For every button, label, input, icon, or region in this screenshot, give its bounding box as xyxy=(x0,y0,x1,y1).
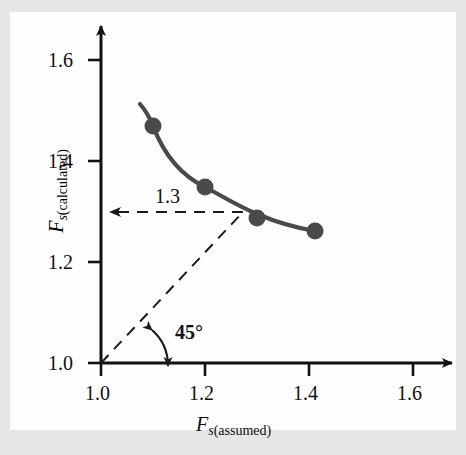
x-tick-label-1.4: 1.4 xyxy=(293,383,318,403)
x-axis-title-main: F xyxy=(196,413,208,435)
solution-value-label: 1.3 xyxy=(155,186,180,206)
y-axis xyxy=(88,26,101,363)
data-point xyxy=(307,223,324,240)
y-axis-title: Fs(calculated) xyxy=(45,121,71,261)
y-tick-label-1.6: 1.6 xyxy=(48,50,73,70)
forty-five-degree-line xyxy=(101,212,243,363)
x-tick-label-1.2: 1.2 xyxy=(189,383,214,403)
data-point xyxy=(249,210,266,227)
data-point xyxy=(145,118,162,135)
angle-arc-arrow xyxy=(152,330,168,366)
x-tick-label-1.6: 1.6 xyxy=(397,383,422,403)
data-point xyxy=(197,179,214,196)
y-axis-title-sub: s xyxy=(55,215,70,220)
figure-container: 1.6 1.4 1.2 1.0 1.0 1.2 1.4 1.6 1.3 45° … xyxy=(0,0,466,455)
x-axis-title-paren: (assumed) xyxy=(214,423,272,438)
y-axis-title-paren: (calculated) xyxy=(55,149,70,215)
y-axis-title-main: F xyxy=(45,221,67,233)
x-tick-label-1.0: 1.0 xyxy=(85,383,110,403)
x-axis xyxy=(101,363,452,376)
x-axis-title: Fs(assumed) xyxy=(196,414,271,438)
y-tick-label-1.0: 1.0 xyxy=(48,353,73,373)
angle-label: 45° xyxy=(175,322,203,342)
